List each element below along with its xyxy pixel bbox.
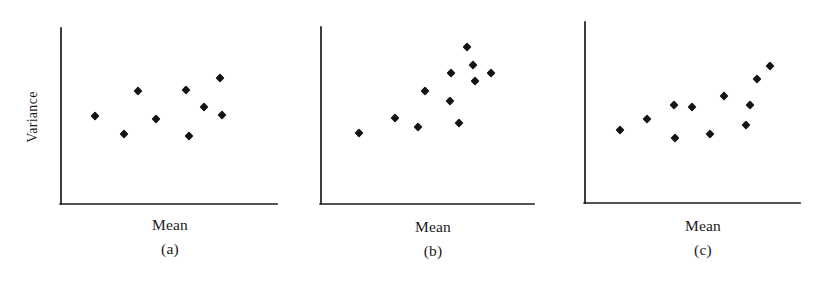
panel-tag-c: (c) [503, 241, 829, 259]
data-point [135, 88, 142, 95]
data-point [217, 75, 224, 82]
data-point [488, 70, 495, 77]
data-point [186, 133, 193, 140]
data-point [392, 115, 399, 122]
data-point [121, 131, 128, 138]
data-point [356, 130, 363, 137]
data-point [470, 62, 477, 69]
panel-c-group [584, 22, 800, 203]
scatter-figure: Variance Mean (a) Mean (b) Mean (c) [0, 0, 829, 284]
data-point [415, 124, 422, 131]
data-point [92, 113, 99, 120]
x-axis-label-mean-c: Mean [503, 217, 829, 235]
data-point [617, 127, 624, 134]
data-point [672, 135, 679, 142]
data-point [201, 104, 208, 111]
data-point [644, 116, 651, 123]
data-point [472, 78, 479, 85]
data-point [153, 116, 160, 123]
data-point [747, 102, 754, 109]
data-point [447, 98, 454, 105]
y-axis-label-variance: Variance [25, 77, 41, 157]
data-point [721, 93, 728, 100]
data-point [707, 131, 714, 138]
data-point [767, 63, 774, 70]
data-point [448, 70, 455, 77]
data-point [456, 120, 463, 127]
data-point [464, 44, 471, 51]
data-point [219, 112, 226, 119]
panel-a-group [60, 28, 277, 204]
data-point [422, 88, 429, 95]
panel-b-group [320, 27, 534, 204]
data-point [689, 104, 696, 111]
data-point [743, 122, 750, 129]
data-point [183, 87, 190, 94]
data-point [754, 76, 761, 83]
data-point [671, 102, 678, 109]
